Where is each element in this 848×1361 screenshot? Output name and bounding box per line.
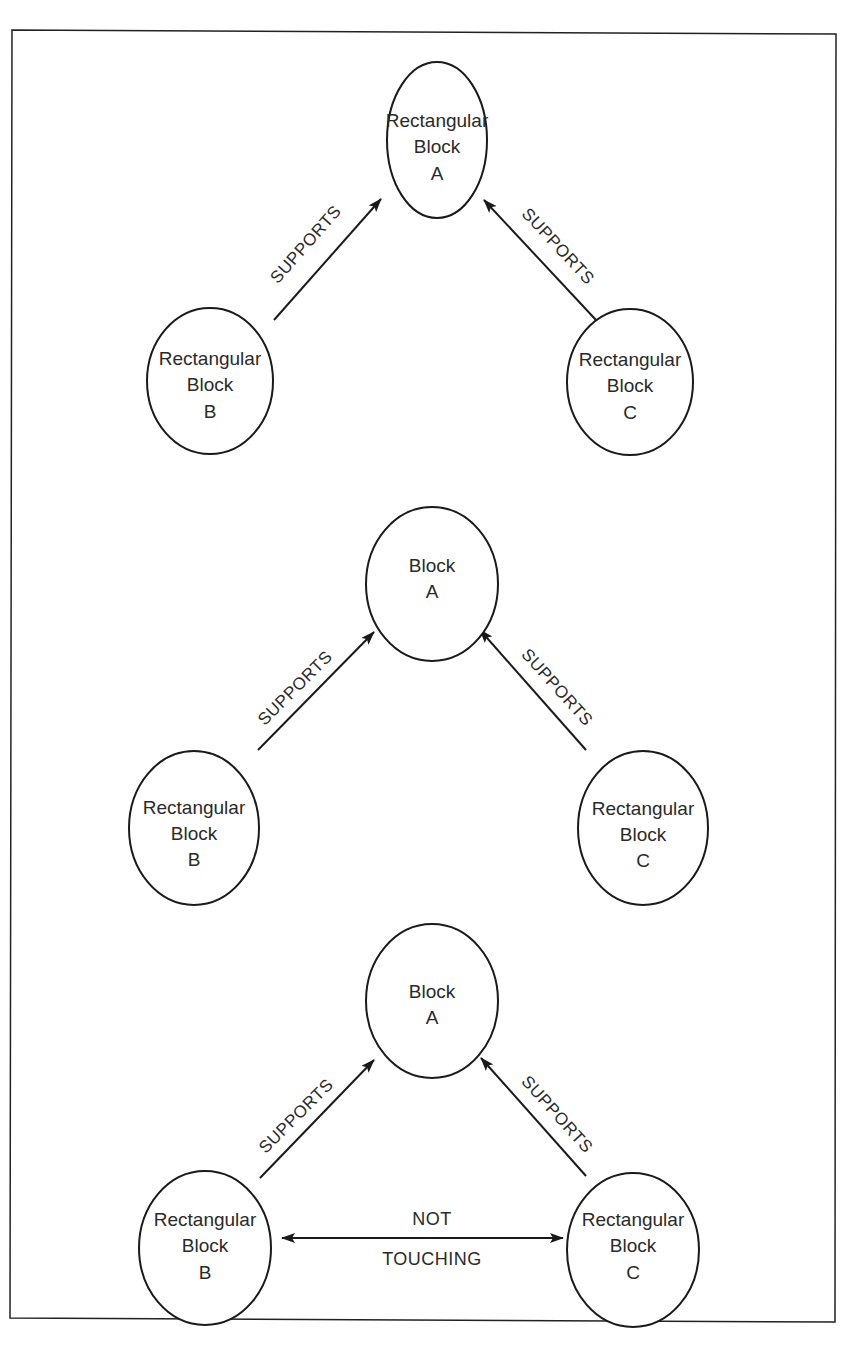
node-block-b: Rectangular Block B [139, 1171, 271, 1325]
edge-c-supports-a: SUPPORTS [480, 630, 597, 750]
node-label-line-1: Rectangular [592, 798, 695, 819]
node-label-line-1: Rectangular [386, 110, 489, 131]
node-label-line-1: Block [409, 555, 456, 576]
node-label-line-2: Block [414, 136, 461, 157]
node-block-a: Rectangular Block A [386, 62, 489, 218]
edge-label-supports: SUPPORTS [518, 204, 598, 288]
arrow-b-to-a [260, 1060, 374, 1178]
edge-label-supports: SUPPORTS [255, 1075, 337, 1157]
diagram-canvas: SUPPORTS SUPPORTS Rectangular Block A Re… [0, 0, 848, 1361]
node-label-line-2: Block [187, 374, 234, 395]
node-label-line-3: B [188, 849, 201, 870]
node-label-line-3: A [431, 163, 444, 184]
node-label-line-1: Rectangular [582, 1209, 685, 1230]
node-label-line-3: C [636, 850, 650, 871]
node-block-c: Rectangular Block C [567, 1173, 699, 1327]
node-label-line-1: Rectangular [579, 349, 682, 370]
edge-label-not: NOT [412, 1209, 452, 1229]
diagram-2: SUPPORTS SUPPORTS Block A Rectangular Bl… [129, 507, 708, 905]
diagram-1: SUPPORTS SUPPORTS Rectangular Block A Re… [147, 62, 693, 455]
edge-b-supports-a: SUPPORTS [255, 1060, 374, 1178]
node-label-line-1: Block [409, 981, 456, 1002]
edge-label-supports: SUPPORTS [254, 647, 336, 729]
node-label-line-2: Block [182, 1235, 229, 1256]
node-label-line-2: Block [610, 1235, 657, 1256]
node-label-line-1: Rectangular [159, 348, 262, 369]
node-block-b: Rectangular Block B [129, 751, 259, 905]
node-label-line-1: Rectangular [154, 1209, 257, 1230]
edge-b-not-touching-c: NOT TOUCHING [282, 1209, 563, 1269]
node-label-line-3: B [204, 401, 217, 422]
node-label-line-2: Block [620, 824, 667, 845]
edge-label-supports: SUPPORTS [267, 202, 346, 287]
node-label-line-2: Block [607, 375, 654, 396]
node-block-a: Block A [366, 507, 498, 661]
edge-c-supports-a: SUPPORTS [481, 1058, 597, 1176]
node-label-line-2: A [426, 581, 439, 602]
node-block-c: Rectangular Block C [578, 751, 708, 905]
arrow-b-to-a [258, 632, 374, 750]
node-label-line-3: C [626, 1262, 640, 1283]
diagram-3: SUPPORTS SUPPORTS NOT TOUCHING Block A R… [139, 924, 699, 1327]
node-block-a: Block A [366, 924, 498, 1078]
edge-b-supports-a: SUPPORTS [267, 199, 381, 320]
edge-label-touching: TOUCHING [382, 1249, 482, 1269]
node-block-b: Rectangular Block B [147, 308, 273, 454]
edge-c-supports-a: SUPPORTS [484, 200, 598, 320]
figure-frame [10, 30, 836, 1322]
node-block-c: Rectangular Block C [567, 309, 693, 455]
node-label-line-1: Rectangular [143, 797, 246, 818]
edge-b-supports-a: SUPPORTS [254, 632, 374, 750]
node-label-line-2: Block [171, 823, 218, 844]
node-label-line-3: C [623, 402, 637, 423]
node-label-line-3: B [199, 1262, 212, 1283]
node-label-line-2: A [426, 1007, 439, 1028]
